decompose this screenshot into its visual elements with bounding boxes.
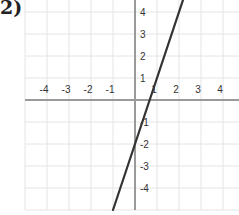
x-tick-label: 2 — [173, 84, 179, 95]
y-tick-label: 1 — [140, 73, 146, 84]
grid-lines — [25, 0, 239, 210]
x-tick-label: -2 — [84, 84, 93, 95]
y-tick-label: 2 — [140, 51, 146, 62]
plotted-line — [113, 0, 183, 210]
coordinate-plane: -4-3-2-112344321-1-2-3-4 — [0, 0, 239, 215]
x-tick-label: 3 — [195, 84, 201, 95]
x-tick-label: -3 — [62, 84, 71, 95]
y-tick-label: 4 — [140, 7, 146, 18]
y-tick-label: 3 — [140, 29, 146, 40]
x-tick-label: -1 — [106, 84, 115, 95]
x-tick-label: -4 — [40, 84, 49, 95]
y-tick-label: -2 — [140, 139, 149, 150]
axes — [25, 0, 239, 210]
line-y-equals-3x-minus-2 — [113, 0, 183, 210]
x-tick-label: 4 — [217, 84, 223, 95]
y-tick-label: -3 — [140, 161, 149, 172]
y-tick-label: -4 — [140, 183, 149, 194]
